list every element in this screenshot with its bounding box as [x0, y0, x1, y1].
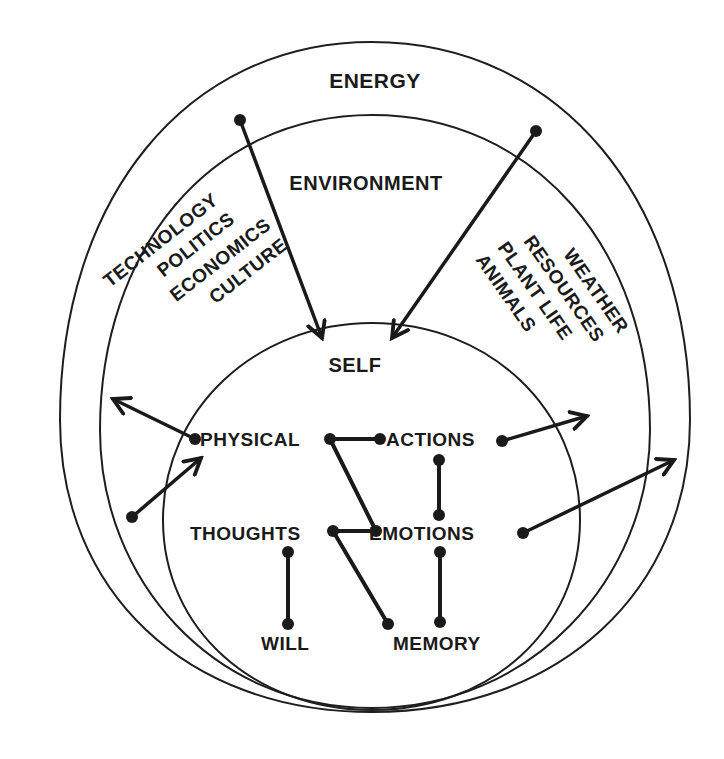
environment-to-physical-arrow [132, 458, 201, 517]
link-physical-emotions [330, 439, 376, 531]
energy-label: ENERGY [329, 69, 421, 92]
right-environment-factors: WEATHER RESOURCES PLANT LIFE ANIMALS [472, 207, 633, 380]
energy-right-anchor-dot [530, 125, 542, 137]
energy-ring [60, 42, 690, 712]
self-ring [163, 323, 580, 710]
node-memory: MEMORY [393, 633, 481, 654]
emotions-outward-arrow [523, 460, 674, 533]
actions-outward-arrow [502, 416, 587, 441]
left-environment-factors: TECHNOLOGY POLITICS ECONOMICS CULTURE [99, 173, 291, 353]
physical-outward-arrow [113, 399, 195, 439]
environment-label: ENVIRONMENT [289, 172, 442, 194]
node-thoughts: THOUGHTS [190, 523, 301, 544]
self-label: SELF [328, 354, 381, 376]
node-actions: ACTIONS [386, 429, 475, 450]
node-emotions: EMOTIONS [369, 523, 474, 544]
energy-left-anchor-dot [234, 114, 246, 126]
node-will: WILL [261, 633, 309, 654]
node-physical: PHYSICAL [200, 429, 300, 450]
link-thoughts-memory [333, 531, 388, 624]
self-environment-energy-diagram: ENERGY ENVIRONMENT SELF TECHNOLOGY POLIT… [0, 0, 724, 759]
environment-left-anchor-dot [126, 511, 138, 523]
environment-ring [100, 115, 650, 708]
